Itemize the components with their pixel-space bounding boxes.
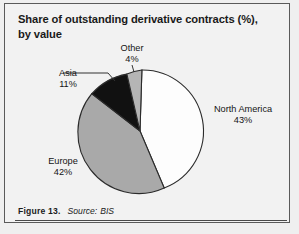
pie-label-asia-name: Asia: [41, 68, 95, 79]
pie-label-other-value: 4%: [104, 54, 160, 65]
pie-label-north-america: North America 43%: [201, 104, 285, 126]
pie-label-other: Other 4%: [104, 43, 160, 65]
figure-number: Figure 13.: [18, 206, 61, 216]
pie-label-europe-value: 42%: [33, 167, 93, 178]
figure-frame: Share of outstanding derivative contract…: [4, 3, 290, 223]
figure-caption: Figure 13.Source:BIS: [18, 206, 114, 216]
source-label: Source:: [68, 206, 98, 216]
source-value: BIS: [100, 206, 114, 216]
pie-label-europe-name: Europe: [33, 156, 93, 167]
figure-container: Share of outstanding derivative contract…: [0, 0, 299, 234]
pie-label-asia-value: 11%: [41, 79, 95, 90]
pie-label-other-name: Other: [104, 43, 160, 54]
leader-line-other: [132, 65, 134, 72]
pie-label-north-america-name: North America: [201, 104, 285, 115]
pie-label-asia: Asia 11%: [41, 68, 95, 90]
pie-label-north-america-value: 43%: [201, 115, 285, 126]
pie-label-europe: Europe 42%: [33, 156, 93, 178]
footer-divider: [15, 220, 287, 221]
